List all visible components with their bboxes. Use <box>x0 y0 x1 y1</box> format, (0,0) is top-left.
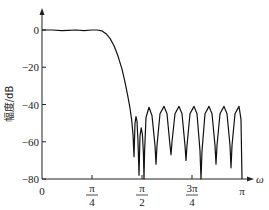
x-tick-label-numerator: 3π <box>186 182 198 194</box>
x-ticks: 0π4π23π4π <box>39 175 245 208</box>
y-axis-title: 幅度/dB <box>3 86 15 123</box>
y-tick-label: 0 <box>34 24 40 36</box>
x-tick-label-denominator: 2 <box>139 196 145 208</box>
x-tick-label-numerator: π <box>89 182 95 194</box>
magnitude-curve <box>42 30 242 179</box>
y-tick-label: −60 <box>22 136 40 148</box>
x-tick-label-denominator: 4 <box>89 196 95 208</box>
x-tick-label: 0 <box>39 185 45 197</box>
magnitude-response-chart: 0−20−40−60−80 0π4π23π4π 幅度/dB ω <box>0 0 269 210</box>
x-tick-label-numerator: π <box>139 182 145 194</box>
y-tick-label: −80 <box>22 173 40 185</box>
x-tick-label: π <box>239 185 245 197</box>
x-axis-arrow-icon <box>247 177 254 182</box>
x-tick-label-denominator: 4 <box>189 196 195 208</box>
y-axis-arrow-icon <box>40 8 45 15</box>
y-tick-label: −40 <box>22 99 40 111</box>
y-tick-label: −20 <box>22 61 40 73</box>
x-axis-title: ω <box>256 173 264 185</box>
